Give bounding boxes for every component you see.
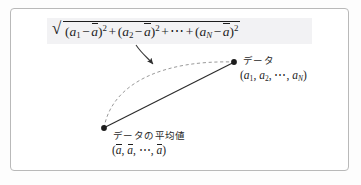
formula-pointer-arrow [136, 45, 153, 64]
diagram-canvas [0, 0, 361, 185]
mean-point-coordinates: (a, a, ⋯, a) [112, 145, 166, 157]
figure-root: √ (a1−a)2+(a2−a)2+⋯+(aN−a)2 データ (a1, a2,… [0, 0, 361, 185]
solid-distance-line [105, 63, 234, 128]
data-point-label: データ [243, 56, 274, 66]
data-point-dot [231, 59, 237, 65]
data-point-coordinates: (a1, a2, ⋯, aN) [240, 70, 307, 82]
mean-point-dot [101, 125, 107, 131]
mean-point-label: データの平均値 [113, 131, 186, 141]
